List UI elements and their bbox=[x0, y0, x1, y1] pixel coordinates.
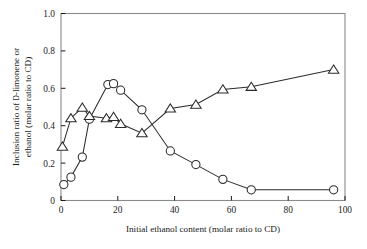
data-point-triangle bbox=[328, 65, 338, 73]
data-point-circle bbox=[67, 173, 75, 181]
x-axis-tick-label: 0 bbox=[59, 205, 64, 215]
x-axis-title: Initial ethanol content (molar ratio to … bbox=[126, 224, 280, 234]
data-point-circle bbox=[247, 186, 255, 194]
x-axis-tick-label: 60 bbox=[227, 205, 237, 215]
x-axis-tick-label: 80 bbox=[284, 205, 294, 215]
y-axis-tick-label: 1.0 bbox=[43, 9, 55, 19]
data-point-triangle bbox=[57, 142, 67, 150]
data-point-circle bbox=[330, 186, 338, 194]
x-axis-tick-label: 20 bbox=[113, 205, 123, 215]
data-point-circle bbox=[78, 153, 86, 161]
data-point-circle bbox=[109, 80, 117, 88]
data-point-triangle bbox=[77, 103, 87, 111]
series-line bbox=[64, 84, 334, 190]
y-axis-tick-label: 0 bbox=[50, 196, 55, 206]
line-chart: 02040608010000.20.40.60.81.0Initial etha… bbox=[0, 0, 367, 249]
plot-frame bbox=[61, 14, 345, 201]
series-triangle bbox=[57, 65, 339, 150]
y-axis-tick-label: 0.6 bbox=[43, 84, 55, 94]
data-point-circle bbox=[117, 86, 125, 94]
y-axis-title-line: ethanol (molar ratio to CD) bbox=[23, 57, 33, 158]
data-point-circle bbox=[138, 106, 146, 114]
chart-figure: 02040608010000.20.40.60.81.0Initial etha… bbox=[0, 0, 367, 249]
series-circle bbox=[60, 80, 338, 194]
y-axis-tick-label: 0.8 bbox=[43, 46, 55, 56]
data-point-circle bbox=[192, 161, 200, 169]
y-axis-tick-label: 0.4 bbox=[43, 121, 55, 131]
data-point-triangle bbox=[191, 100, 201, 108]
data-point-circle bbox=[60, 181, 68, 189]
y-axis-tick-label: 0.2 bbox=[43, 159, 55, 169]
x-axis-tick-label: 40 bbox=[170, 205, 180, 215]
data-point-circle bbox=[166, 147, 174, 155]
data-point-circle bbox=[219, 175, 227, 183]
y-axis-title-line: Inclusion ratio of D-limonene or bbox=[11, 48, 21, 166]
data-point-triangle bbox=[108, 112, 118, 120]
x-axis-tick-label: 100 bbox=[338, 205, 352, 215]
